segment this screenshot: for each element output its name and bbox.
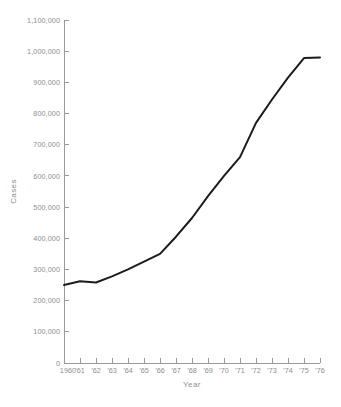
y-tick-label: 900,000 [33, 78, 60, 87]
x-tick-label: '63 [107, 366, 117, 375]
y-tick-label: 200,000 [33, 296, 60, 305]
y-tick-label: 1,100,000 [27, 16, 60, 25]
y-tick-label: 500,000 [33, 203, 60, 212]
x-tick-label: '76 [315, 366, 325, 375]
x-tick-label: '66 [155, 366, 165, 375]
x-tick-label: '71 [235, 366, 245, 375]
y-axis: 0100,000200,000300,000400,000500,000600,… [27, 16, 69, 368]
x-tick-label: '72 [251, 366, 261, 375]
x-tick-label: '74 [283, 366, 293, 375]
cases-series-line [64, 57, 320, 285]
x-tick-label: '75 [299, 366, 309, 375]
x-tick-label: '67 [171, 366, 181, 375]
y-tick-label: 400,000 [33, 234, 60, 243]
line-chart: 0100,000200,000300,000400,000500,000600,… [0, 0, 341, 407]
y-tick-label: 1,000,000 [27, 47, 60, 56]
x-tick-label: '69 [203, 366, 213, 375]
x-axis-title: Year [183, 380, 201, 389]
y-tick-label: 300,000 [33, 265, 60, 274]
x-tick-label: '61 [75, 366, 85, 375]
y-tick-label: 100,000 [33, 327, 60, 336]
x-tick-label: '64 [123, 366, 133, 375]
chart-canvas: 0100,000200,000300,000400,000500,000600,… [0, 0, 341, 407]
y-axis-title: Cases [9, 179, 18, 204]
x-axis: 1960'61'62'63'64'65'66'67'68'69'70'71'72… [60, 358, 325, 375]
x-tick-label: '68 [187, 366, 197, 375]
x-tick-label: '62 [91, 366, 101, 375]
x-tick-label: '65 [139, 366, 149, 375]
y-tick-label: 800,000 [33, 109, 60, 118]
y-tick-label: 600,000 [33, 172, 60, 181]
x-tick-label: '70 [219, 366, 229, 375]
y-tick-label: 700,000 [33, 140, 60, 149]
x-tick-label: '73 [267, 366, 277, 375]
x-tick-label: 1960 [60, 366, 76, 375]
